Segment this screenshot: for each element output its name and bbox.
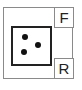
die-pip-icon xyxy=(21,49,27,55)
label-box-front: F xyxy=(54,7,74,28)
label-box-rear: R xyxy=(54,58,74,79)
die-pip-icon xyxy=(35,42,41,48)
label-front: F xyxy=(59,10,68,25)
label-rear: R xyxy=(59,61,70,76)
die-pip-icon xyxy=(22,34,28,40)
die-face xyxy=(11,26,52,66)
